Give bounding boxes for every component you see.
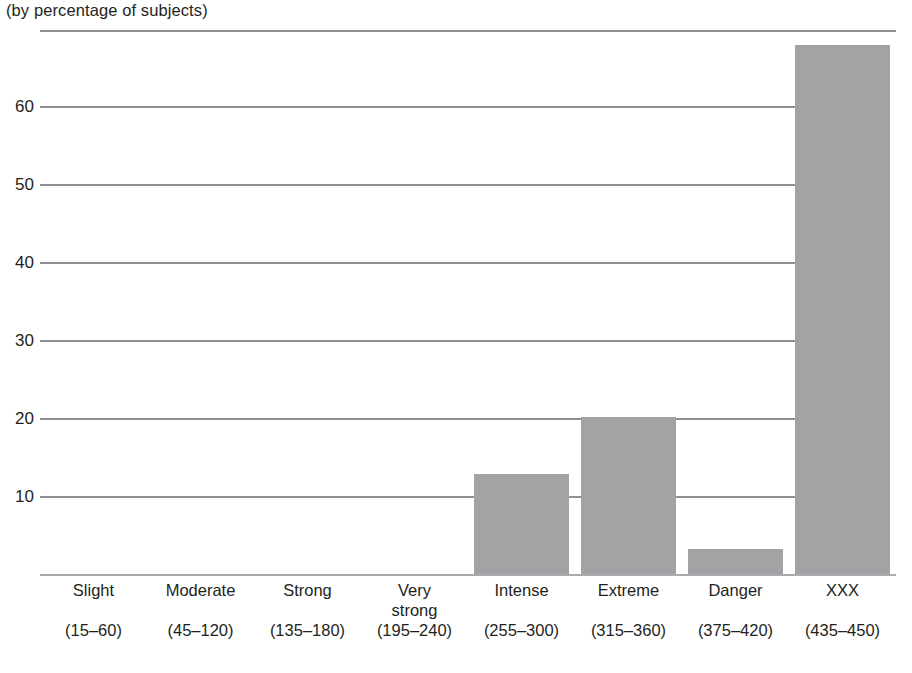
x-axis-category-range: (195–240) xyxy=(361,620,468,640)
x-axis-category-range: (135–180) xyxy=(254,620,361,640)
x-axis-category-name: Moderate xyxy=(147,580,254,600)
bars-layer xyxy=(40,30,896,575)
x-axis-category-name: Danger xyxy=(682,580,789,600)
y-axis-tick-label: 30 xyxy=(15,332,34,349)
x-axis-category-name: Strong xyxy=(254,580,361,600)
bar xyxy=(795,45,890,575)
x-axis-category-range: (255–300) xyxy=(468,620,575,640)
y-axis-tick-label: 20 xyxy=(15,410,34,427)
y-axis-tick-label: 10 xyxy=(15,488,34,505)
bar-chart: (by percentage of subjects) 605040302010… xyxy=(0,0,912,673)
chart-subtitle: (by percentage of subjects) xyxy=(6,1,208,20)
x-axis-category: Slight(15–60) xyxy=(40,580,147,600)
x-axis-category-range: (45–120) xyxy=(147,620,254,640)
x-axis-category-range: (375–420) xyxy=(682,620,789,640)
x-axis-category: XXX(435–450) xyxy=(789,580,896,600)
y-axis-tick-label: 60 xyxy=(15,98,34,115)
x-axis-category: Very strong(195–240) xyxy=(361,580,468,620)
x-axis-category-name: Slight xyxy=(40,580,147,600)
x-axis-baseline xyxy=(40,574,896,576)
y-axis-tick-labels: 605040302010 xyxy=(0,0,34,673)
x-axis-category-range: (315–360) xyxy=(575,620,682,640)
x-axis-category: Danger(375–420) xyxy=(682,580,789,600)
y-axis-tick-label: 50 xyxy=(15,176,34,193)
x-axis-category-name: Intense xyxy=(468,580,575,600)
bar xyxy=(688,549,783,575)
x-axis-category: Moderate(45–120) xyxy=(147,580,254,600)
x-axis-category-name: Very strong xyxy=(361,580,468,620)
bar xyxy=(581,417,676,575)
bar xyxy=(474,474,569,575)
x-axis-tick-labels: Slight(15–60)Moderate(45–120)Strong(135–… xyxy=(40,580,896,670)
x-axis-category: Strong(135–180) xyxy=(254,580,361,600)
x-axis-category: Intense(255–300) xyxy=(468,580,575,600)
x-axis-category-range: (435–450) xyxy=(789,620,896,640)
x-axis-category-name: Extreme xyxy=(575,580,682,600)
x-axis-category-name: XXX xyxy=(789,580,896,600)
x-axis-category-range: (15–60) xyxy=(40,620,147,640)
y-axis-tick-label: 40 xyxy=(15,254,34,271)
x-axis-category: Extreme(315–360) xyxy=(575,580,682,600)
